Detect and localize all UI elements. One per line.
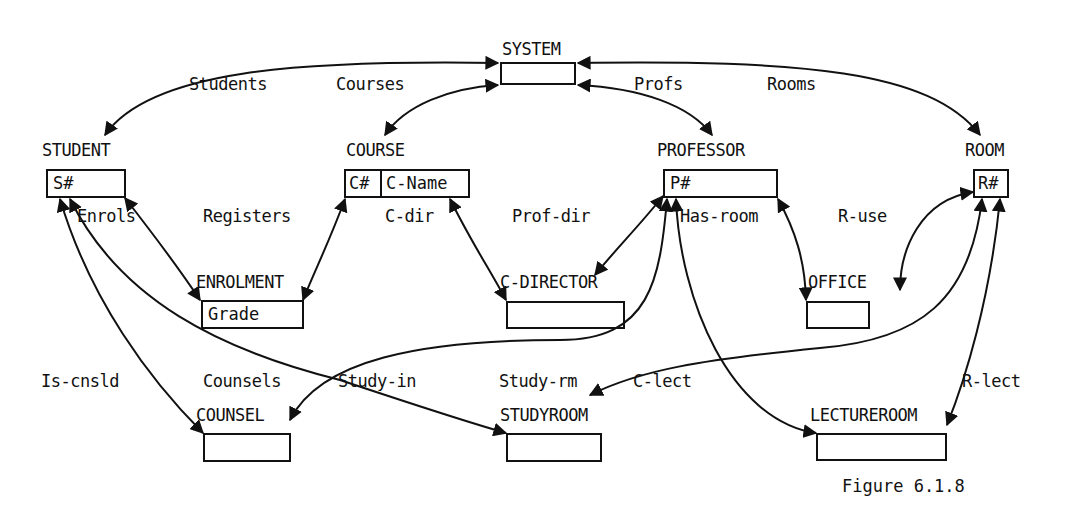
set-link-registers (303, 199, 345, 300)
set-label-r-use: R-use (838, 207, 887, 225)
record-name-enrolment: ENROLMENT (196, 273, 284, 291)
record-box-room[interactable]: R# (973, 169, 1009, 198)
set-link-c-dir (450, 199, 506, 300)
set-link-students (105, 63, 498, 135)
set-label-enrols: Enrols (77, 207, 135, 225)
record-box-studyroom[interactable] (506, 433, 602, 462)
set-label-study-in: Study-in (338, 372, 416, 390)
set-label-profs: Profs (634, 75, 683, 93)
field-p-number: P# (665, 171, 690, 196)
record-name-student: STUDENT (42, 141, 110, 159)
record-name-office: OFFICE (808, 273, 866, 291)
record-name-studyroom: STUDYROOM (500, 406, 588, 424)
field-s-number: S# (48, 171, 73, 196)
set-label-rooms: Rooms (767, 75, 816, 93)
field-r-number: R# (975, 171, 998, 196)
set-label-c-dir: C-dir (385, 207, 434, 225)
field-grade: Grade (203, 302, 259, 327)
record-name-professor: PROFESSOR (657, 141, 745, 159)
set-label-study-rm: Study-rm (499, 372, 577, 390)
set-link-has-room (778, 199, 806, 300)
field-c-name: C-Name (380, 171, 447, 196)
record-box-lectureroom[interactable] (816, 433, 947, 461)
set-label-has-room: Has-room (680, 207, 758, 225)
record-name-c-director: C-DIRECTOR (500, 273, 597, 291)
record-box-student[interactable]: S# (46, 169, 126, 198)
set-link-r-lect (947, 199, 1000, 425)
record-name-counsel: COUNSEL (196, 406, 264, 424)
record-box-c-director[interactable] (506, 301, 625, 329)
set-link-study-rm (590, 199, 982, 395)
record-box-office[interactable] (806, 301, 870, 329)
set-label-students: Students (189, 75, 267, 93)
figure-caption: Figure 6.1.8 (842, 476, 965, 496)
record-box-system[interactable] (500, 62, 576, 85)
set-label-r-lect: R-lect (962, 372, 1020, 390)
set-label-courses: Courses (336, 75, 404, 93)
record-box-course[interactable]: C# C-Name (344, 169, 470, 198)
record-box-counsel[interactable] (203, 433, 291, 462)
set-label-c-lect: C-lect (633, 372, 691, 390)
set-link-is-cnsld (60, 199, 203, 433)
record-name-lectureroom: LECTUREROOM (810, 406, 917, 424)
set-link-prof-dir (595, 196, 663, 275)
set-link-r-use (900, 192, 973, 290)
record-name-course: COURSE (346, 141, 404, 159)
set-label-is-cnsld: Is-cnsld (41, 372, 119, 390)
record-name-system: SYSTEM (502, 40, 560, 58)
record-name-room: ROOM (965, 141, 1004, 159)
set-label-prof-dir: Prof-dir (512, 207, 590, 225)
record-box-enrolment[interactable]: Grade (201, 300, 304, 329)
set-label-counsels: Counsels (203, 372, 281, 390)
network-diagram: SYSTEM STUDENT S# COURSE C# C-Name PROFE… (0, 0, 1084, 511)
field-c-number: C# (346, 171, 380, 196)
set-label-registers: Registers (203, 207, 291, 225)
record-box-professor[interactable]: P# (663, 169, 778, 198)
